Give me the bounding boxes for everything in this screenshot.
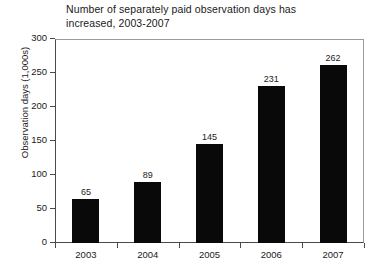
y-tick-label: 100 xyxy=(31,168,47,179)
bar-2007 xyxy=(320,65,347,243)
x-tick-label-2003: 2003 xyxy=(55,249,117,260)
x-tick-label-2007: 2007 xyxy=(302,249,364,260)
bar-chart: Number of separately paid observation da… xyxy=(0,0,378,273)
y-tick-label: 50 xyxy=(36,202,47,213)
y-tick-mark xyxy=(50,38,55,39)
bar-value-label-2005: 145 xyxy=(179,132,241,142)
y-tick-label: 0 xyxy=(42,236,47,247)
y-tick-label: 150 xyxy=(31,134,47,145)
y-tick-mark xyxy=(50,106,55,107)
y-tick-label: 250 xyxy=(31,66,47,77)
x-tick-mark xyxy=(364,243,365,248)
y-tick-mark xyxy=(50,72,55,73)
y-tick-label: 200 xyxy=(31,100,47,111)
y-axis-title: Observation days (1,000s) xyxy=(19,23,30,183)
bar-2004 xyxy=(134,182,161,243)
bar-value-label-2006: 231 xyxy=(240,74,302,84)
chart-title: Number of separately paid observation da… xyxy=(66,2,356,30)
bar-2006 xyxy=(258,86,285,243)
y-tick-mark xyxy=(50,174,55,175)
x-tick-mark xyxy=(117,243,118,248)
y-tick-mark xyxy=(50,208,55,209)
bar-value-label-2004: 89 xyxy=(117,170,179,180)
x-tick-mark xyxy=(179,243,180,248)
bar-2003 xyxy=(72,199,99,243)
x-tick-label-2005: 2005 xyxy=(179,249,241,260)
bar-value-label-2003: 65 xyxy=(55,187,117,197)
x-tick-mark xyxy=(302,243,303,248)
bar-2005 xyxy=(196,144,223,243)
bar-value-label-2007: 262 xyxy=(302,53,364,63)
y-tick-mark xyxy=(50,140,55,141)
x-tick-mark xyxy=(55,243,56,248)
y-tick-label: 300 xyxy=(31,32,47,43)
x-tick-mark xyxy=(240,243,241,248)
x-tick-label-2006: 2006 xyxy=(240,249,302,260)
x-tick-label-2004: 2004 xyxy=(117,249,179,260)
